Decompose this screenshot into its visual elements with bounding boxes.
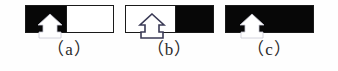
panel-c-caption: （c）	[213, 38, 326, 62]
panel-a-right-region	[66, 6, 113, 32]
pawn-arrow-marker-icon	[35, 13, 65, 39]
panel-b-right-region	[175, 6, 213, 32]
figure-panel-c: （c）	[213, 0, 326, 71]
figure-panel-b: （b）	[113, 0, 226, 71]
panel-b-frame	[125, 5, 214, 33]
panel-a-divider	[66, 6, 67, 32]
panel-a-caption: （a）	[13, 38, 126, 62]
panel-c-frame	[225, 5, 314, 33]
figure-panel-row: （a） （b） （c）	[0, 0, 338, 71]
panel-b-divider	[175, 6, 176, 32]
panel-b-caption: （b）	[113, 38, 226, 62]
pawn-arrow-marker-icon	[137, 13, 167, 39]
panel-a-frame	[25, 5, 114, 33]
figure-panel-a: （a）	[13, 0, 126, 71]
pawn-arrow-marker-icon	[237, 13, 267, 39]
